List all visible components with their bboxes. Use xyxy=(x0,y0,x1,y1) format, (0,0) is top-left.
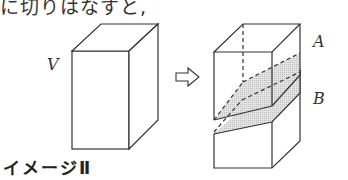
figure-caption: イメージⅡ xyxy=(3,154,92,179)
figure xyxy=(0,0,348,180)
label-a: A xyxy=(313,32,325,51)
right-outline-arrow-icon xyxy=(176,68,199,86)
solid-v xyxy=(72,24,158,149)
label-b: B xyxy=(313,89,325,108)
label-v: V xyxy=(47,55,59,74)
